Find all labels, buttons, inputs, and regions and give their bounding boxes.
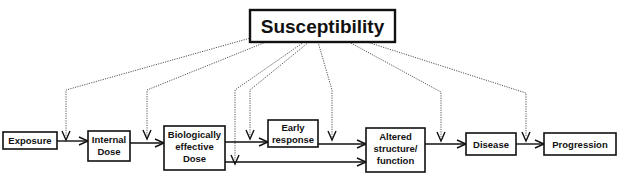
modifier-line-early-altered (318, 42, 332, 137)
node-early-response: Early response (268, 120, 318, 147)
susceptibility-node: Susceptibility (250, 10, 395, 42)
node-label: response (272, 134, 314, 145)
node-label: Altered (379, 131, 412, 142)
node-label: Exposure (8, 135, 51, 146)
modifier-line-exposure-internal (66, 37, 254, 137)
node-label: function (377, 155, 415, 166)
node-exposure: Exposure (3, 132, 57, 149)
node-altered-structure-function: Altered structure/ function (366, 128, 425, 172)
node-internal-dose: Internal Dose (88, 131, 130, 161)
node-disease: Disease (466, 133, 516, 155)
modifier-line-internal-biological (147, 42, 266, 136)
node-label: Biologically (168, 129, 222, 140)
node-progression: Progression (544, 133, 616, 155)
modifier-line-altered-disease (349, 42, 441, 137)
node-label: Internal (92, 134, 126, 145)
node-label: Early (281, 122, 305, 133)
susceptibility-pathway-diagram: Susceptibility Exposure Internal Dose Bi… (0, 0, 619, 182)
node-label: effective (175, 141, 214, 152)
node-label: structure/ (374, 143, 418, 154)
node-biologically-effective-dose: Biologically effective Dose (164, 126, 225, 170)
modifier-line-disease-progression (367, 42, 526, 137)
node-label: Dose (97, 146, 120, 157)
node-label: Disease (473, 139, 509, 150)
node-label: Progression (552, 139, 608, 150)
susceptibility-label: Susceptibility (261, 16, 385, 37)
node-label: Dose (183, 153, 206, 164)
